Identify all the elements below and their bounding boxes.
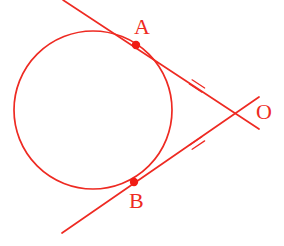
tick-mark-bo: [189, 137, 204, 150]
tangent-line-a: [63, 0, 259, 129]
tangent-lines-group: [62, 0, 259, 233]
tangency-points-group: [130, 41, 140, 186]
geometry-figure: A B O: [0, 0, 284, 246]
point-b-label: B: [129, 190, 144, 212]
tick-mark-ao: [189, 80, 204, 92]
circle-shape: [14, 31, 172, 189]
point-a-dot: [132, 41, 140, 49]
tangent-line-b: [62, 97, 259, 233]
point-a-label: A: [134, 16, 150, 38]
point-o-label: O: [256, 101, 272, 123]
point-b-dot: [130, 178, 138, 186]
